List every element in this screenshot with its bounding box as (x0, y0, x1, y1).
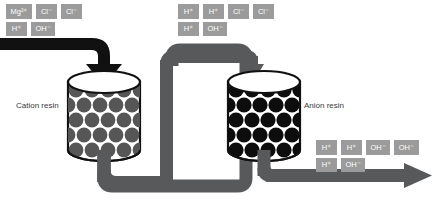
cation-effluent-ion-labels: H⁺ H⁺ Cl⁻ Cl⁻ H⁺ OH⁻ (178, 4, 274, 36)
ion-chip: H⁺ (178, 4, 199, 19)
ion-chip: OH⁻ (203, 22, 227, 37)
ion-chip: H⁺ (316, 140, 337, 155)
anion-resin-caption: Anion resin (304, 101, 344, 110)
ion-chip: OH⁻ (366, 140, 390, 155)
chip-row: H⁺ OH⁻ (316, 158, 419, 173)
chip-row: H⁺ H⁺ OH⁻ OH⁻ (316, 140, 419, 155)
ion-chip: Cl⁻ (228, 4, 249, 19)
ion-chip: H⁺ (6, 22, 27, 37)
ion-chip: Cl⁻ (253, 4, 274, 19)
ion-chip: Cl⁻ (36, 4, 57, 19)
diagram-canvas: Mg²⁺ Cl⁻ Cl⁻ H⁺ OH⁻ H⁺ H⁺ Cl⁻ Cl⁻ H⁺ OH⁻… (0, 0, 435, 201)
ion-chip: H⁺ (316, 158, 337, 173)
ion-chip: H⁺ (203, 4, 224, 19)
ion-chip: H⁺ (341, 140, 362, 155)
chip-row: H⁺ OH⁻ (6, 22, 82, 37)
anion-effluent-ion-labels: H⁺ H⁺ OH⁻ OH⁻ H⁺ OH⁻ (316, 140, 419, 172)
ion-chip: OH⁻ (31, 22, 55, 37)
feed-water-ion-labels: Mg²⁺ Cl⁻ Cl⁻ H⁺ OH⁻ (6, 4, 82, 36)
ion-chip: Mg²⁺ (6, 4, 32, 19)
chip-row: H⁺ OH⁻ (178, 22, 274, 37)
chip-row: Mg²⁺ Cl⁻ Cl⁻ (6, 4, 82, 19)
ion-chip: H⁺ (178, 22, 199, 37)
ion-chip: Cl⁻ (61, 4, 82, 19)
cation-resin-caption: Cation resin (16, 101, 59, 110)
ion-chip: OH⁻ (341, 158, 365, 173)
chip-row: H⁺ H⁺ Cl⁻ Cl⁻ (178, 4, 274, 19)
ion-chip: OH⁻ (394, 140, 418, 155)
anion-resin-vessel (220, 71, 307, 161)
